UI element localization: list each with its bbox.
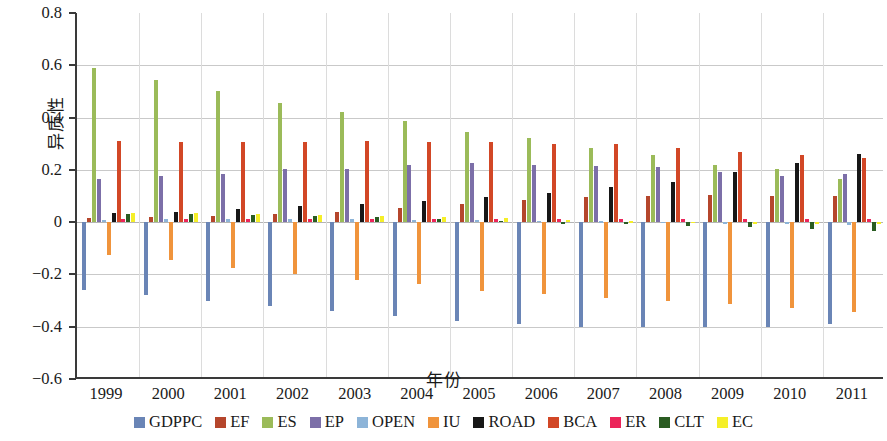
legend-item-ec[interactable]: EC xyxy=(717,414,753,431)
bar xyxy=(288,219,292,222)
bar xyxy=(713,165,717,223)
bar xyxy=(283,169,287,223)
bar xyxy=(843,174,847,222)
bar xyxy=(365,141,369,222)
bar xyxy=(144,222,148,295)
bar xyxy=(790,222,794,308)
legend-item-ep[interactable]: EP xyxy=(310,414,344,431)
bar xyxy=(403,121,407,222)
bar xyxy=(97,179,101,222)
bar xyxy=(566,220,570,222)
bar xyxy=(92,68,96,222)
bar xyxy=(728,222,732,304)
legend-item-bca[interactable]: BCA xyxy=(548,414,597,431)
bar xyxy=(298,206,302,222)
bar xyxy=(427,142,431,222)
chart-legend: GDPPCEFESEPOPENIUROADBCAERCLTEC xyxy=(0,414,887,431)
bar xyxy=(810,222,814,229)
bar xyxy=(542,222,546,294)
bar xyxy=(107,222,111,255)
bar xyxy=(273,214,277,222)
bar xyxy=(646,196,650,222)
bar xyxy=(599,221,603,223)
bar xyxy=(805,219,809,222)
bar xyxy=(766,222,770,327)
group-separator xyxy=(388,13,389,377)
group-separator xyxy=(512,13,513,377)
y-tick-label: 0.6 xyxy=(0,55,62,75)
bar xyxy=(375,217,379,222)
legend-item-clt[interactable]: CLT xyxy=(659,414,704,431)
bar xyxy=(442,217,446,222)
group-separator xyxy=(450,13,451,377)
bar xyxy=(517,222,521,324)
bar xyxy=(226,219,230,222)
bar xyxy=(686,222,690,226)
bar xyxy=(355,222,359,280)
bar xyxy=(211,216,215,223)
bar xyxy=(770,196,774,222)
bar xyxy=(126,214,130,222)
bar xyxy=(753,222,757,224)
legend-swatch-icon xyxy=(473,417,484,428)
bar xyxy=(624,222,628,224)
bar xyxy=(117,141,121,222)
legend-swatch-icon xyxy=(548,417,559,428)
bar xyxy=(169,222,173,260)
legend-swatch-icon xyxy=(357,417,368,428)
bar xyxy=(833,196,837,222)
legend-swatch-icon xyxy=(659,417,670,428)
bar xyxy=(733,172,737,222)
bar xyxy=(206,222,210,300)
bar xyxy=(475,220,479,222)
legend-item-road[interactable]: ROAD xyxy=(473,414,535,431)
gridline xyxy=(77,327,883,328)
bar xyxy=(629,221,633,223)
group-separator xyxy=(201,13,202,377)
bar xyxy=(437,219,441,222)
bar xyxy=(231,222,235,268)
bar xyxy=(216,91,220,222)
bar xyxy=(609,187,613,222)
legend-item-ef[interactable]: EF xyxy=(215,414,249,431)
bar xyxy=(174,212,178,222)
bar xyxy=(738,152,742,223)
bar xyxy=(877,222,881,224)
bar xyxy=(795,163,799,222)
legend-item-er[interactable]: ER xyxy=(610,414,646,431)
bar xyxy=(422,201,426,222)
legend-label: CLT xyxy=(674,414,704,431)
legend-item-open[interactable]: OPEN xyxy=(357,414,415,431)
bar xyxy=(480,222,484,291)
legend-item-iu[interactable]: IU xyxy=(428,414,460,431)
bar xyxy=(532,165,536,223)
bar xyxy=(380,216,384,222)
bar xyxy=(489,142,493,222)
bar xyxy=(246,219,250,222)
bar xyxy=(748,222,752,227)
bar xyxy=(360,204,364,222)
bar xyxy=(708,195,712,222)
bar xyxy=(619,219,623,222)
legend-item-es[interactable]: ES xyxy=(262,414,296,431)
legend-item-gdppc[interactable]: GDPPC xyxy=(134,414,202,431)
group-separator xyxy=(636,13,637,377)
bar xyxy=(661,222,665,224)
group-separator xyxy=(326,13,327,377)
legend-label: ER xyxy=(625,414,646,431)
bar xyxy=(121,219,125,222)
bar xyxy=(470,163,474,222)
bar xyxy=(828,222,832,324)
bar xyxy=(87,218,91,222)
bar xyxy=(303,142,307,222)
bar xyxy=(815,222,819,224)
legend-swatch-icon xyxy=(310,417,321,428)
bar xyxy=(330,222,334,311)
bar xyxy=(256,214,260,222)
bar xyxy=(522,200,526,222)
bar xyxy=(460,204,464,222)
bar xyxy=(407,165,411,223)
bar xyxy=(455,222,459,321)
bar xyxy=(221,174,225,222)
bar xyxy=(412,220,416,223)
